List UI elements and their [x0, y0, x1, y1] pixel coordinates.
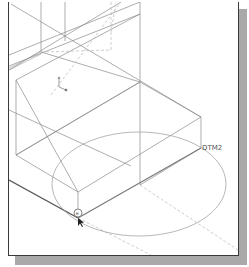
csys-triad-icon	[58, 77, 67, 91]
cad-graphics-viewport[interactable]: ⊕ DTM2	[8, 2, 239, 256]
datum-label: DTM2	[202, 144, 222, 152]
mouse-cursor-icon	[78, 218, 84, 227]
svg-text:⊕: ⊕	[76, 211, 79, 216]
wireframe-model: ⊕ DTM2	[9, 2, 238, 255]
